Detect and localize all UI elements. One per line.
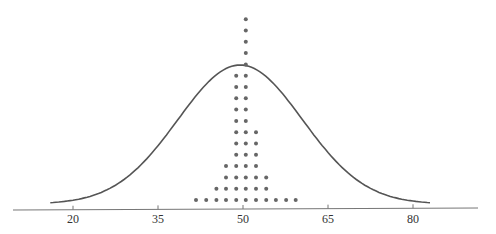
data-dot xyxy=(234,142,238,146)
data-dot xyxy=(244,40,248,44)
data-dot xyxy=(264,175,268,179)
data-dot xyxy=(254,153,258,157)
data-dot xyxy=(244,164,248,168)
data-dot xyxy=(244,74,248,78)
data-dot xyxy=(214,187,218,191)
data-dot xyxy=(194,198,198,202)
data-dots xyxy=(194,17,298,202)
x-tick-label: 50 xyxy=(237,212,249,227)
x-axis xyxy=(13,208,478,210)
data-dot xyxy=(234,130,238,134)
data-dot xyxy=(234,74,238,78)
data-dot xyxy=(234,198,238,202)
data-dot xyxy=(244,96,248,100)
data-dot xyxy=(234,164,238,168)
data-dot xyxy=(224,187,228,191)
data-dot xyxy=(244,62,248,66)
data-dot xyxy=(244,153,248,157)
data-dot xyxy=(274,198,278,202)
data-dot xyxy=(264,198,268,202)
data-dot xyxy=(214,198,218,202)
data-dot xyxy=(244,142,248,146)
data-dot xyxy=(284,198,288,202)
x-tick-label: 65 xyxy=(322,212,334,227)
data-dot xyxy=(224,164,228,168)
data-dot xyxy=(264,187,268,191)
x-tick-label: 20 xyxy=(67,212,79,227)
data-dot xyxy=(234,108,238,112)
data-dot xyxy=(254,198,258,202)
data-dot xyxy=(244,130,248,134)
data-dot xyxy=(234,175,238,179)
data-dot xyxy=(234,119,238,123)
data-dot xyxy=(244,29,248,33)
dot-plot-chart xyxy=(0,0,496,234)
data-dot xyxy=(234,85,238,89)
data-dot xyxy=(244,175,248,179)
data-dot xyxy=(224,198,228,202)
data-dot xyxy=(244,17,248,21)
data-dot xyxy=(244,51,248,55)
data-dot xyxy=(244,198,248,202)
data-dot xyxy=(254,142,258,146)
x-tick-label: 80 xyxy=(407,212,419,227)
data-dot xyxy=(254,175,258,179)
data-dot xyxy=(244,108,248,112)
data-dot xyxy=(254,130,258,134)
data-dot xyxy=(254,187,258,191)
data-dot xyxy=(254,164,258,168)
data-dot xyxy=(294,198,298,202)
data-dot xyxy=(224,175,228,179)
data-dot xyxy=(234,153,238,157)
data-dot xyxy=(244,85,248,89)
data-dot xyxy=(204,198,208,202)
normal-curve xyxy=(50,65,430,203)
data-dot xyxy=(244,119,248,123)
data-dot xyxy=(234,187,238,191)
x-tick-label: 35 xyxy=(152,212,164,227)
data-dot xyxy=(234,96,238,100)
data-dot xyxy=(244,187,248,191)
